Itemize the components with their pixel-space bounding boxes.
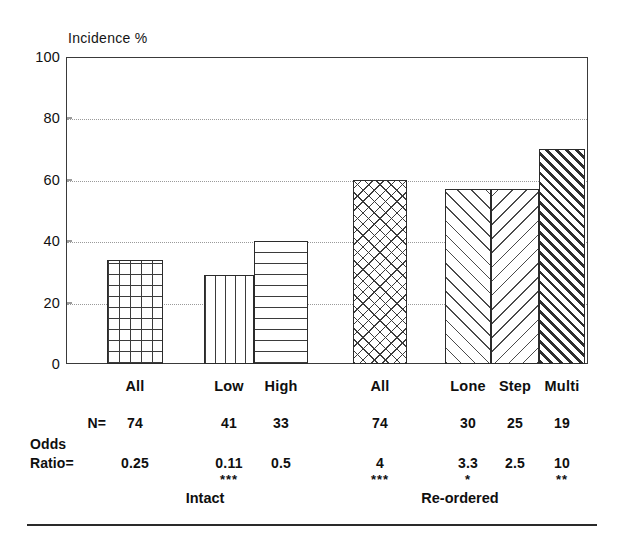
row-label-odds-line2: Ratio= — [30, 455, 106, 471]
n-value-reordered-multi: 19 — [554, 415, 570, 431]
y-tick-label-80: 80 — [14, 110, 60, 126]
y-tick-label-100: 100 — [14, 49, 60, 65]
n-value-reordered-all: 74 — [372, 415, 388, 431]
odds-ratio-reordered-all: 4 — [376, 455, 384, 471]
odds-ratio-intact-low: 0.11 — [215, 455, 242, 471]
figure-incidence-chart: Incidence % 100 80 60 40 20 0 All Low Hi… — [0, 0, 624, 541]
y-tick-label-20: 20 — [14, 295, 60, 311]
group-label-re-ordered: Re-ordered — [421, 490, 498, 506]
row-label-n: N= — [30, 415, 106, 431]
row-label-odds-line1: Odds — [30, 436, 106, 452]
x-label-intact-high: High — [264, 378, 297, 394]
odds-ratio-reordered-step: 2.5 — [505, 455, 525, 471]
n-value-intact-high: 33 — [273, 415, 289, 431]
significance-intact-low: *** — [220, 472, 238, 487]
x-label-intact-low: Low — [214, 378, 244, 394]
y-tick-label-0: 0 — [14, 356, 60, 372]
significance-reordered-all: *** — [371, 472, 389, 487]
odds-ratio-reordered-lone: 3.3 — [458, 455, 478, 471]
bar-reordered-lone — [445, 189, 491, 364]
bar-reordered-multi — [539, 149, 585, 364]
x-label-reordered-all: All — [370, 378, 389, 394]
x-label-reordered-lone: Lone — [450, 378, 485, 394]
n-value-reordered-step: 25 — [507, 415, 523, 431]
y-tick-label-40: 40 — [14, 233, 60, 249]
n-value-reordered-lone: 30 — [460, 415, 476, 431]
bar-series — [66, 57, 588, 364]
significance-reordered-lone: * — [465, 472, 471, 487]
y-tick-label-60: 60 — [14, 172, 60, 188]
bar-intact-low — [204, 275, 254, 364]
x-label-reordered-multi: Multi — [545, 378, 580, 394]
bar-intact-all — [107, 260, 163, 364]
odds-ratio-reordered-multi: 10 — [554, 455, 570, 471]
odds-ratio-intact-all: 0.25 — [121, 455, 149, 471]
n-value-intact-all: 74 — [127, 415, 143, 431]
significance-reordered-multi: ** — [556, 472, 568, 487]
x-label-reordered-step: Step — [499, 378, 531, 394]
chart-title: Incidence % — [68, 30, 148, 46]
odds-ratio-intact-high: 0.5 — [271, 455, 291, 471]
bar-intact-high — [254, 241, 308, 364]
x-label-intact-all: All — [125, 378, 144, 394]
bottom-divider — [27, 524, 597, 526]
bar-reordered-all — [353, 180, 407, 364]
n-value-intact-low: 41 — [221, 415, 237, 431]
group-label-intact: Intact — [186, 490, 225, 506]
bar-reordered-step — [491, 189, 539, 364]
